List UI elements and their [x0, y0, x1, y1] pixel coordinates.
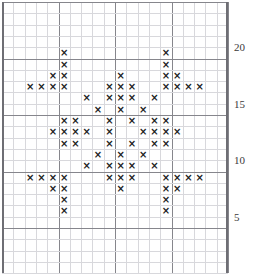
stitch-mark[interactable]: ×: [81, 92, 92, 103]
stitch-mark[interactable]: ×: [59, 183, 70, 194]
stitch-mark[interactable]: ×: [194, 172, 205, 183]
stitch-mark[interactable]: ×: [160, 205, 171, 216]
gridline-horizontal: [2, 205, 228, 206]
stitch-mark[interactable]: ×: [81, 126, 92, 137]
gridline-horizontal: [2, 13, 228, 14]
stitch-mark[interactable]: ×: [160, 172, 171, 183]
stitch-mark[interactable]: ×: [160, 115, 171, 126]
stitch-mark[interactable]: ×: [138, 104, 149, 115]
stitch-mark[interactable]: ×: [59, 194, 70, 205]
stitch-mark[interactable]: ×: [59, 47, 70, 58]
stitch-mark[interactable]: ×: [92, 104, 103, 115]
stitch-mark[interactable]: ×: [104, 81, 115, 92]
stitch-mark[interactable]: ×: [160, 59, 171, 70]
stitch-mark[interactable]: ×: [194, 81, 205, 92]
stitch-mark[interactable]: ×: [149, 160, 160, 171]
grid-right-border: [226, 2, 228, 273]
row-label-15: 15: [234, 99, 245, 110]
stitch-mark[interactable]: ×: [115, 149, 126, 160]
stitch-mark[interactable]: ×: [149, 92, 160, 103]
stitch-mark[interactable]: ×: [172, 183, 183, 194]
stitch-mark[interactable]: ×: [160, 47, 171, 58]
stitch-mark[interactable]: ×: [70, 138, 81, 149]
stitch-mark[interactable]: ×: [104, 172, 115, 183]
stitch-mark[interactable]: ×: [126, 115, 137, 126]
stitch-mark[interactable]: ×: [59, 172, 70, 183]
stitch-mark[interactable]: ×: [138, 149, 149, 160]
stitch-mark[interactable]: ×: [59, 205, 70, 216]
gridline-horizontal: [2, 36, 228, 37]
stitch-mark[interactable]: ×: [149, 126, 160, 137]
gridline-vertical: [228, 2, 229, 273]
stitch-mark[interactable]: ×: [81, 160, 92, 171]
stitch-mark[interactable]: ×: [126, 92, 137, 103]
stitch-mark[interactable]: ×: [104, 138, 115, 149]
stitch-mark[interactable]: ×: [183, 172, 194, 183]
gridline-horizontal: [2, 239, 228, 240]
stitch-mark[interactable]: ×: [126, 172, 137, 183]
stitch-mark[interactable]: ×: [160, 183, 171, 194]
stitch-mark[interactable]: ×: [149, 138, 160, 149]
stitch-mark[interactable]: ×: [70, 126, 81, 137]
pattern-grid[interactable]: ××××××××××××××××××××××××××××××××××××××××…: [2, 2, 228, 273]
stitch-mark[interactable]: ×: [104, 92, 115, 103]
gridline-horizontal: [2, 59, 228, 60]
stitch-mark[interactable]: ×: [47, 70, 58, 81]
gridline-horizontal: [2, 273, 228, 274]
gridline-horizontal: [2, 217, 228, 218]
stitch-mark[interactable]: ×: [115, 172, 126, 183]
stitch-mark[interactable]: ×: [172, 70, 183, 81]
gridline-horizontal: [2, 47, 228, 48]
stitch-mark[interactable]: ×: [126, 138, 137, 149]
stitch-mark[interactable]: ×: [115, 160, 126, 171]
stitch-mark[interactable]: ×: [115, 81, 126, 92]
stitch-mark[interactable]: ×: [149, 115, 160, 126]
stitch-mark[interactable]: ×: [115, 183, 126, 194]
stitch-mark[interactable]: ×: [160, 138, 171, 149]
stitch-mark[interactable]: ×: [47, 81, 58, 92]
stitch-mark[interactable]: ×: [47, 126, 58, 137]
stitch-mark[interactable]: ×: [138, 126, 149, 137]
stitch-mark[interactable]: ×: [126, 160, 137, 171]
stitch-mark[interactable]: ×: [160, 70, 171, 81]
row-label-5: 5: [234, 212, 240, 223]
stitch-mark[interactable]: ×: [183, 81, 194, 92]
stitch-mark[interactable]: ×: [104, 126, 115, 137]
stitch-mark[interactable]: ×: [70, 115, 81, 126]
gridline-horizontal: [2, 115, 228, 116]
stitch-mark[interactable]: ×: [59, 138, 70, 149]
stitch-mark[interactable]: ×: [172, 81, 183, 92]
stitch-mark[interactable]: ×: [172, 126, 183, 137]
gridline-horizontal: [2, 126, 228, 127]
grid-left-border: [2, 2, 4, 273]
gridline-horizontal: [2, 2, 228, 3]
stitch-mark[interactable]: ×: [59, 115, 70, 126]
stitch-mark[interactable]: ×: [160, 194, 171, 205]
gridline-horizontal: [2, 194, 228, 195]
stitch-mark[interactable]: ×: [59, 59, 70, 70]
gridline-horizontal: [2, 228, 228, 229]
stitch-mark[interactable]: ×: [160, 81, 171, 92]
stitch-mark[interactable]: ×: [59, 81, 70, 92]
gridline-horizontal: [2, 262, 228, 263]
stitch-mark[interactable]: ×: [104, 115, 115, 126]
stitch-mark[interactable]: ×: [25, 81, 36, 92]
stitch-mark[interactable]: ×: [172, 172, 183, 183]
stitch-mark[interactable]: ×: [36, 172, 47, 183]
gridline-horizontal: [2, 25, 228, 26]
row-label-10: 10: [234, 155, 245, 166]
stitch-mark[interactable]: ×: [59, 126, 70, 137]
stitch-mark[interactable]: ×: [104, 160, 115, 171]
stitch-mark[interactable]: ×: [47, 183, 58, 194]
stitch-mark[interactable]: ×: [25, 172, 36, 183]
stitch-mark[interactable]: ×: [115, 104, 126, 115]
stitch-mark[interactable]: ×: [36, 81, 47, 92]
stitch-mark[interactable]: ×: [47, 172, 58, 183]
stitch-mark[interactable]: ×: [126, 81, 137, 92]
stitch-mark[interactable]: ×: [92, 149, 103, 160]
stitch-mark[interactable]: ×: [160, 126, 171, 137]
stitch-mark[interactable]: ×: [59, 70, 70, 81]
gridline-horizontal: [2, 251, 228, 252]
stitch-mark[interactable]: ×: [115, 92, 126, 103]
stitch-mark[interactable]: ×: [115, 70, 126, 81]
